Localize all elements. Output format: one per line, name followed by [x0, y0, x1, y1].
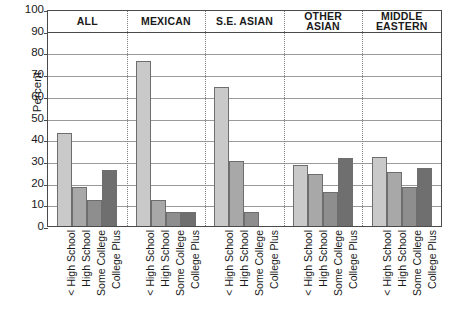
- y-tick-label: 20: [14, 178, 44, 190]
- x-category-label: College Plus: [190, 230, 201, 322]
- x-axis-category-labels: < High SchoolHigh SchoolSome CollegeColl…: [47, 228, 442, 323]
- y-tick-label: 30: [14, 156, 44, 168]
- x-label-group-1: < High SchoolHigh SchoolSome CollegeColl…: [47, 228, 126, 323]
- x-category-label: College Plus: [269, 230, 280, 322]
- y-axis-tick-labels: 0102030405060708090100: [14, 0, 44, 323]
- x-label-slot: High School: [230, 228, 245, 323]
- x-category-label: College Plus: [111, 230, 122, 322]
- y-tick-label: 40: [14, 134, 44, 146]
- x-label-slot: College Plus: [181, 228, 196, 323]
- y-tick-label: 70: [14, 69, 44, 81]
- x-label-slot: College Plus: [102, 228, 117, 323]
- group-separators: [48, 11, 441, 226]
- x-label-slot: < High School: [57, 228, 72, 323]
- x-label-group-2: < High SchoolHigh SchoolSome CollegeColl…: [126, 228, 205, 323]
- x-label-slot: Some College: [403, 228, 418, 323]
- x-label-slot: High School: [72, 228, 87, 323]
- group-separator: [205, 11, 207, 226]
- x-label-group-5: < High SchoolHigh SchoolSome CollegeColl…: [363, 228, 442, 323]
- x-label-slot: < High School: [373, 228, 388, 323]
- y-tick-label: 90: [14, 26, 44, 38]
- x-label-slot: Some College: [166, 228, 181, 323]
- y-tick-label: 60: [14, 91, 44, 103]
- group-separator: [362, 11, 364, 226]
- x-label-slot: < High School: [136, 228, 151, 323]
- x-label-slot: College Plus: [418, 228, 433, 323]
- x-label-slot: High School: [151, 228, 166, 323]
- x-label-slot: Some College: [87, 228, 102, 323]
- x-label-group-3: < High SchoolHigh SchoolSome CollegeColl…: [205, 228, 284, 323]
- x-label-slot: < High School: [215, 228, 230, 323]
- x-label-slot: High School: [309, 228, 324, 323]
- x-label-group-4: < High SchoolHigh SchoolSome CollegeColl…: [284, 228, 363, 323]
- x-category-label: College Plus: [427, 230, 438, 322]
- x-label-slot: College Plus: [260, 228, 275, 323]
- x-label-slot: Some College: [324, 228, 339, 323]
- x-label-slot: < High School: [294, 228, 309, 323]
- y-tick-label: 10: [14, 200, 44, 212]
- x-label-slot: High School: [388, 228, 403, 323]
- x-label-slot: Some College: [245, 228, 260, 323]
- percent-by-education-bar-chart: Percent 0102030405060708090100 ALLMEXICA…: [0, 0, 453, 323]
- plot-area: ALLMEXICANS.E. ASIANOTHERASIANMIDDLEEAST…: [47, 10, 442, 227]
- y-tick-label: 100: [14, 4, 44, 16]
- y-tick-label: 80: [14, 48, 44, 60]
- x-label-slot: College Plus: [339, 228, 354, 323]
- y-tick-label: 0: [14, 221, 44, 233]
- y-tick-label: 50: [14, 113, 44, 125]
- group-separator: [284, 11, 286, 226]
- group-separator: [127, 11, 129, 226]
- x-category-label: College Plus: [348, 230, 359, 322]
